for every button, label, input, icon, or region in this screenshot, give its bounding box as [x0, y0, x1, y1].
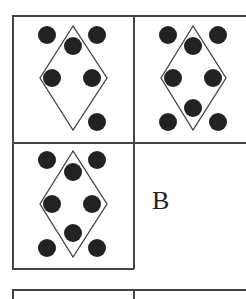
dot-cell-2 — [204, 69, 222, 87]
dot-cell-1 — [88, 26, 106, 44]
dot-cell-2 — [184, 99, 202, 117]
dot-cell-2 — [209, 26, 227, 44]
dot-cell-1 — [83, 69, 101, 87]
dot-cell-3 — [38, 239, 56, 257]
dot-cell-2 — [184, 37, 202, 55]
dot-cell-3 — [88, 239, 106, 257]
dot-cell-3 — [64, 224, 82, 242]
dot-cell-1 — [64, 37, 82, 55]
dot-cell-2 — [159, 113, 177, 131]
dot-cell-2 — [164, 69, 182, 87]
dot-cell-3 — [38, 151, 56, 169]
dot-cell-2 — [159, 26, 177, 44]
dot-cell-2 — [209, 113, 227, 131]
dot-cell-3 — [83, 195, 101, 213]
dot-group — [38, 26, 227, 257]
dot-cell-1 — [38, 26, 56, 44]
dot-cell-1 — [88, 113, 106, 131]
dot-cell-3 — [43, 195, 61, 213]
dot-cell-1 — [43, 69, 61, 87]
dot-cell-3 — [64, 163, 82, 181]
dot-cell-3 — [88, 151, 106, 169]
answer-label: B — [152, 186, 169, 216]
